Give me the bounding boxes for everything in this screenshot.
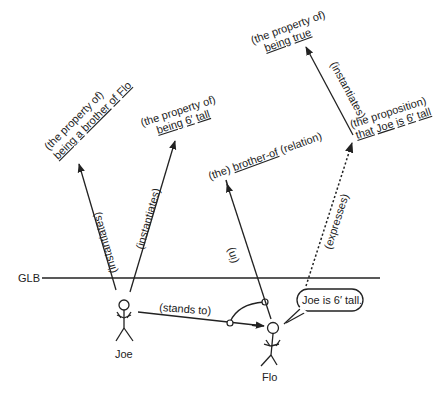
flo-label: Flo bbox=[262, 371, 277, 383]
glb-diagram: GLB Joe Flo (instantiates) (instantiates… bbox=[0, 0, 446, 399]
edge-label-stands-to: (stands to) bbox=[159, 301, 212, 317]
joe-figure bbox=[116, 300, 133, 341]
speech-bubble-text: Joe is 6′ tall. bbox=[302, 294, 362, 306]
arc-node-start bbox=[227, 320, 233, 326]
svg-text:(the) brother-of (relation): (the) brother-of (relation) bbox=[207, 130, 324, 182]
edge-label-expresses: (expresses) bbox=[321, 192, 350, 250]
relation-arrow-double bbox=[226, 180, 228, 187]
relation-arc bbox=[230, 302, 264, 322]
arrow-expresses bbox=[306, 143, 352, 286]
node-brother-property: (the property of) being a brother of Flo bbox=[42, 70, 134, 162]
glb-label: GLB bbox=[18, 272, 40, 284]
edge-label-joe-instantiates-brother: (instantiates) bbox=[90, 211, 119, 275]
flo-figure bbox=[261, 323, 280, 367]
double-arrowhead bbox=[252, 325, 259, 326]
edge-label-prop-instantiates-true: (instantiates) bbox=[328, 59, 368, 120]
node-tall-property: (the property of) being 6′ tall bbox=[139, 93, 221, 140]
edge-label-joe-instantiates-tall: (instantiates) bbox=[133, 187, 162, 251]
brother-property-line2: being a brother of Flo bbox=[51, 79, 133, 161]
speech-bubble: Joe is 6′ tall. bbox=[284, 289, 363, 324]
glb-line: GLB bbox=[18, 272, 380, 284]
node-brother-relation: (the) brother-of (relation) bbox=[207, 130, 324, 182]
edge-label-in: (in) bbox=[224, 246, 240, 265]
diagram-svg: GLB Joe Flo (instantiates) (instantiates… bbox=[0, 0, 446, 399]
joe-label: Joe bbox=[115, 348, 133, 360]
node-true-property: (the property of) being true bbox=[249, 8, 331, 57]
